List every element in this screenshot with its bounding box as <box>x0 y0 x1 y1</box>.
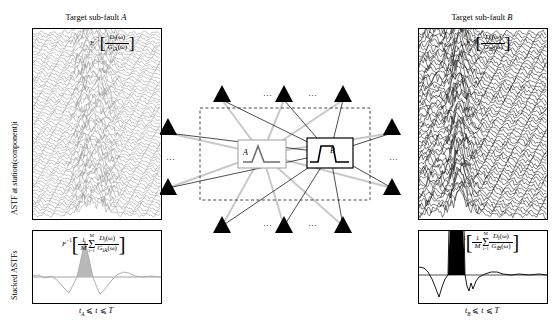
formula-stack-b: F−1[1MMΣi=1Di(ω)GiB(ω)] <box>456 232 519 252</box>
station-triangle <box>275 85 293 102</box>
formula-sb-den-arg: (ω) <box>501 242 510 250</box>
formula-b-num-arg: (ω) <box>492 33 501 41</box>
station-triangle <box>213 216 231 233</box>
formula-sa-sigma-lower: i=1 <box>88 249 95 254</box>
xcap-b-sub: B <box>467 311 470 317</box>
formula-deconvolution-a: F−1[Di(ω)GiA(ω)] <box>90 34 135 52</box>
station-triangle <box>275 216 293 233</box>
x-axis-caption-b: tB ⩽ t ⩽ T <box>418 306 546 317</box>
ellipsis-top-1: … <box>263 88 273 98</box>
formula-sb-mean-den: M <box>472 243 482 250</box>
seismogram-traces-a <box>33 29 161 219</box>
ellipsis-right: … <box>389 152 399 162</box>
title-left-italic: A <box>121 12 126 22</box>
formula-a-den-arg: (ω) <box>118 43 127 51</box>
xcap-a-sub: A <box>81 311 84 317</box>
formula-sa-num-arg: (ω) <box>106 234 115 242</box>
formula-sb-sigma-lower: i=1 <box>482 247 489 252</box>
ellipsis-bottom-1: … <box>263 218 273 228</box>
y-axis-label-stacked: Stacked ASTFs <box>10 250 19 300</box>
subfault-label-a: A <box>243 148 248 157</box>
seismogram-panel-a <box>32 28 162 220</box>
title-left-prefix: Target sub-fault <box>65 12 121 22</box>
formula-stack-a: F−1[1MMΣi=1Di(ω)GiA(ω)] <box>62 234 126 254</box>
figure-root: Target sub-fault A Target sub-fault B AS… <box>0 0 555 330</box>
panel-title-left: Target sub-fault A <box>32 12 160 22</box>
formula-sa-mean-den: M <box>78 245 88 252</box>
title-right-italic: B <box>507 12 512 22</box>
title-right-prefix: Target sub-fault <box>451 12 507 22</box>
station-distribution-diagram <box>160 82 410 242</box>
formula-a-num-arg: (ω) <box>116 33 125 41</box>
station-triangle <box>213 85 231 102</box>
subfault-label-b: B <box>330 146 335 155</box>
formula-deconvolution-b: F−1[Di(ω)GiB(ω)] <box>466 34 510 52</box>
formula-sb-num-arg: (ω) <box>500 232 509 240</box>
seismogram-traces-b <box>419 29 547 219</box>
formula-sa-den-arg: (ω) <box>108 244 117 252</box>
station-triangle <box>334 216 352 233</box>
ellipsis-left: … <box>166 152 176 162</box>
y-axis-label-astf: ASTF at station(component)i <box>10 121 19 215</box>
seismogram-panel-b <box>418 28 548 220</box>
ellipsis-bottom-2: … <box>308 218 318 228</box>
station-triangle <box>383 118 401 135</box>
station-triangle <box>334 85 352 102</box>
panel-title-right: Target sub-fault B <box>418 12 546 22</box>
ellipsis-top-2: … <box>308 88 318 98</box>
x-axis-caption-a: tA ⩽ t ⩽ T <box>32 306 160 317</box>
station-triangle <box>160 118 177 135</box>
formula-b-den-arg: (ω) <box>493 43 502 51</box>
